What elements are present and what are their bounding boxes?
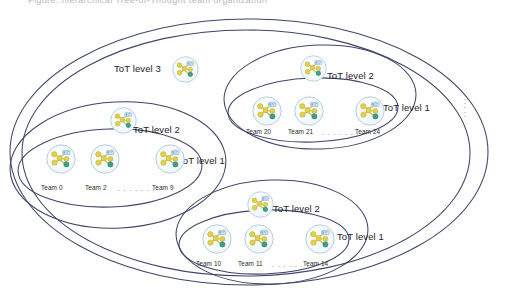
team-label: Team 21	[288, 128, 313, 135]
team-label: Team 20	[246, 128, 271, 135]
label-tot-level-1-topright: ToT level 1	[383, 102, 430, 113]
team-ellipsis: . . . . . . .	[322, 129, 359, 136]
team-label: Team 10	[196, 260, 221, 267]
team-node-icon	[252, 96, 282, 126]
figure-canvas: Figure: hierarchical Tree-of-Thought tea…	[0, 0, 520, 306]
label-tot-level-1-bottom: ToT level 1	[337, 231, 384, 242]
node-icon-level-2-bottom	[247, 191, 274, 218]
node-icon-level-3	[172, 56, 199, 83]
team-label: Team 11	[238, 260, 263, 267]
continuation-dots: . . . . .	[464, 96, 466, 117]
team-node-icon	[46, 144, 76, 174]
team-node-icon	[155, 144, 185, 174]
team-ellipsis: . . . . . . .	[272, 261, 309, 268]
team-label: Team 0	[41, 184, 63, 191]
team-node-icon	[305, 224, 335, 254]
label-tot-level-2-left: ToT level 2	[133, 124, 180, 135]
team-label: Team 2	[85, 184, 107, 191]
label-tot-level-2-topright: ToT level 2	[327, 70, 374, 81]
label-tot-level-1-left: ToT level 1	[178, 155, 225, 166]
team-node-icon	[90, 144, 120, 174]
team-node-icon	[244, 224, 274, 254]
team-ellipsis: . . . . . . .	[118, 185, 155, 192]
label-tot-level-2-bottom: ToT level 2	[273, 203, 320, 214]
team-node-icon	[202, 224, 232, 254]
node-icon-level-2-topright	[300, 55, 327, 82]
team-node-icon	[294, 96, 324, 126]
label-tot-level-3: ToT level 3	[114, 63, 161, 74]
team-node-icon	[355, 96, 385, 126]
